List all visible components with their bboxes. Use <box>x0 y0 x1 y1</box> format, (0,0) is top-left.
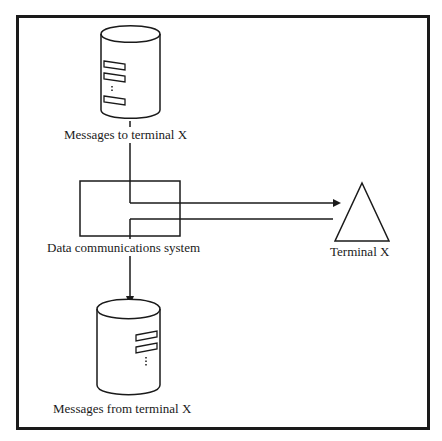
database-icon-messages-from <box>97 299 160 395</box>
database-icon-messages-to <box>101 26 160 119</box>
terminal-icon <box>335 183 389 241</box>
label-terminal-x: Terminal X <box>330 244 389 260</box>
label-messages-to-terminal: Messages to terminal X <box>64 127 187 143</box>
diagram-canvas <box>0 0 442 441</box>
label-messages-from-terminal: Messages from terminal X <box>53 401 191 417</box>
label-data-communications-system: Data communications system <box>47 240 200 256</box>
